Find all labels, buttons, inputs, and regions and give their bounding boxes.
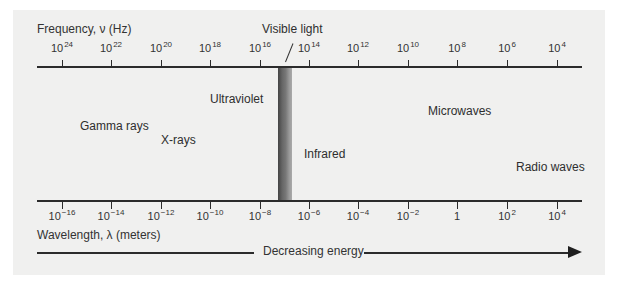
frequency-tick	[557, 60, 558, 67]
tick-exponent: 18	[212, 40, 221, 49]
wavelength-tick-label: 10−10	[197, 210, 224, 222]
tick-base: 10	[498, 210, 510, 222]
frequency-tick	[457, 60, 458, 67]
frequency-tick	[260, 60, 261, 67]
wavelength-tick-label: 102	[498, 210, 516, 222]
tick-exponent: 20	[163, 40, 172, 49]
tick-base: 10	[249, 210, 261, 222]
tick-base: 10	[51, 42, 63, 54]
tick-base: 10	[199, 42, 211, 54]
arrowhead-icon	[568, 246, 582, 258]
tick-base: 10	[98, 210, 110, 222]
tick-exponent: 6	[511, 40, 515, 49]
energy-arrow-line-right	[364, 252, 570, 254]
radio-waves-label: Radio waves	[516, 160, 585, 174]
microwaves-label: Microwaves	[428, 104, 491, 118]
tick-base: 10	[298, 210, 310, 222]
wavelength-tick-label: 10−8	[249, 210, 271, 222]
frequency-tick-label: 1012	[347, 42, 369, 54]
tick-exponent: 24	[64, 40, 73, 49]
frequency-tick-label: 1016	[249, 42, 271, 54]
gamma-rays-label: Gamma rays	[80, 119, 149, 133]
frequency-tick	[161, 60, 162, 67]
tick-exponent: 8	[461, 40, 465, 49]
wavelength-tick	[557, 202, 558, 209]
frequency-tick-label: 1018	[199, 42, 221, 54]
frequency-tick	[358, 60, 359, 67]
wavelength-tick-label: 10−4	[347, 210, 369, 222]
tick-exponent: −14	[111, 208, 125, 217]
tick-exponent: −12	[161, 208, 175, 217]
tick-base: 10	[397, 210, 409, 222]
tick-base: 10	[397, 42, 409, 54]
frequency-tick-label: 106	[498, 42, 516, 54]
energy-arrow-label: Decreasing energy	[263, 244, 364, 258]
wavelength-tick-label: 10−6	[298, 210, 320, 222]
frequency-tick-label: 1014	[298, 42, 320, 54]
wavelength-tick-label: 10−2	[397, 210, 419, 222]
tick-exponent: 10	[410, 40, 419, 49]
tick-exponent: −8	[262, 208, 271, 217]
tick-base: 10	[347, 42, 359, 54]
wavelength-tick-label: 104	[548, 210, 566, 222]
tick-base: 10	[548, 42, 560, 54]
tick-exponent: −6	[311, 208, 320, 217]
tick-exponent: 16	[262, 40, 271, 49]
frequency-tick-label: 1022	[100, 42, 122, 54]
wavelength-axis-title: Wavelength, λ (meters)	[37, 228, 161, 242]
tick-base: 10	[100, 42, 112, 54]
tick-exponent: −10	[210, 208, 224, 217]
tick-exponent: 22	[113, 40, 122, 49]
wavelength-tick	[457, 202, 458, 209]
frequency-tick	[507, 60, 508, 67]
tick-base: 10	[148, 210, 160, 222]
energy-arrow-line-left	[37, 252, 254, 254]
x-rays-label: X-rays	[161, 133, 196, 147]
frequency-tick	[62, 60, 63, 67]
ultraviolet-label: Ultraviolet	[210, 92, 263, 106]
frequency-tick-label: 1010	[397, 42, 419, 54]
tick-exponent: 14	[311, 40, 320, 49]
tick-base: 10	[548, 210, 560, 222]
frequency-tick-label: 104	[548, 42, 566, 54]
tick-base: 10	[298, 42, 310, 54]
frequency-tick-label: 1024	[51, 42, 73, 54]
tick-base: 10	[197, 210, 209, 222]
visible-light-band	[278, 68, 292, 201]
tick-base: 10	[498, 42, 510, 54]
tick-base: 1	[454, 210, 460, 222]
tick-exponent: 12	[360, 40, 369, 49]
infrared-label: Infrared	[304, 147, 345, 161]
frequency-tick-label: 1020	[150, 42, 172, 54]
frequency-axis-title: Frequency, ν (Hz)	[37, 22, 131, 36]
wavelength-tick-label: 10−14	[98, 210, 125, 222]
tick-exponent: 4	[561, 40, 565, 49]
tick-exponent: −4	[360, 208, 369, 217]
tick-base: 10	[150, 42, 162, 54]
wavelength-tick-label: 1	[454, 210, 460, 222]
wavelength-tick-label: 10−12	[148, 210, 175, 222]
frequency-tick	[408, 60, 409, 67]
wavelength-tick-label: 10−16	[49, 210, 76, 222]
tick-exponent: −2	[410, 208, 419, 217]
visible-light-label: Visible light	[262, 22, 322, 36]
tick-exponent: −16	[62, 208, 76, 217]
frequency-tick	[210, 60, 211, 67]
tick-exponent: 4	[561, 208, 565, 217]
frequency-tick	[111, 60, 112, 67]
wavelength-tick	[507, 202, 508, 209]
tick-base: 10	[249, 42, 261, 54]
tick-base: 10	[448, 42, 460, 54]
tick-base: 10	[49, 210, 61, 222]
tick-base: 10	[347, 210, 359, 222]
frequency-tick	[309, 60, 310, 67]
tick-exponent: 2	[511, 208, 515, 217]
frequency-tick-label: 108	[448, 42, 466, 54]
